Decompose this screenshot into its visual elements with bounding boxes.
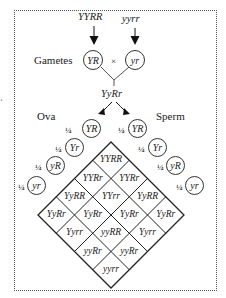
sperm-allele-circle: yr: [185, 176, 204, 195]
ova-allele-circle: YR: [82, 119, 101, 138]
gamete-right-allele: yr: [131, 55, 139, 66]
sperm-allele-circle: Yr: [148, 138, 167, 157]
grid-cell: yyRr: [120, 247, 138, 257]
gamete-left-circle: YR: [83, 50, 103, 70]
sperm-allele: yR: [170, 160, 181, 171]
grid-cell: YYrr: [102, 192, 120, 202]
ova-allele-circle: yR: [46, 156, 65, 175]
sperm-fraction: ¼: [118, 126, 125, 135]
grid-cell: yyRR: [101, 229, 121, 239]
grid-cell: YyRR: [137, 192, 158, 202]
diagram-lines: [0, 0, 226, 298]
grid-cell: YYRr: [119, 174, 139, 184]
ova-fraction: ¼: [18, 183, 25, 192]
ova-allele: yr: [32, 180, 40, 191]
grid-cell: yyrr: [103, 265, 119, 275]
grid-cell: YYRr: [83, 174, 103, 184]
grid-cell: YyRr: [83, 210, 102, 220]
sperm-fraction: ¼: [176, 183, 183, 192]
sperm-allele-circle: yR: [166, 156, 185, 175]
grid-cell: YyRR: [64, 192, 85, 202]
gamete-right-circle: yr: [125, 50, 145, 70]
gametes-label: Gametes: [34, 55, 72, 66]
ova-fraction: ¼: [55, 145, 62, 154]
ova-allele-circle: Yr: [65, 138, 84, 157]
sperm-allele: YR: [132, 123, 144, 134]
ova-allele: Yr: [70, 142, 79, 153]
ova-allele: yR: [50, 160, 61, 171]
sperm-fraction: ¼: [138, 145, 145, 154]
sperm-fraction: ¼: [157, 163, 164, 172]
grid-cell: yyRr: [84, 247, 102, 257]
grid-cell: Yyrr: [66, 229, 83, 239]
sperm-label: Sperm: [156, 111, 185, 122]
ova-allele: YR: [86, 123, 98, 134]
ova-allele-circle: yr: [27, 176, 46, 195]
grid-cell: YYRR: [100, 156, 122, 166]
grid-cell: YyRr: [47, 210, 66, 220]
grid-cell: Yyrr: [139, 229, 156, 239]
grid-cell: YyRr: [120, 210, 139, 220]
cross-symbol: ×: [111, 57, 116, 66]
gamete-left-allele: YR: [87, 55, 99, 66]
sperm-allele-circle: YR: [128, 119, 147, 138]
grid-cell: YyRr: [156, 210, 175, 220]
ova-label: Ova: [37, 111, 55, 122]
sperm-allele: Yr: [153, 142, 162, 153]
ova-fraction: ¼: [65, 126, 72, 135]
sperm-allele: yr: [190, 180, 198, 191]
f1-genotype: YyRr: [101, 89, 122, 100]
ova-fraction: ¼: [35, 163, 42, 172]
